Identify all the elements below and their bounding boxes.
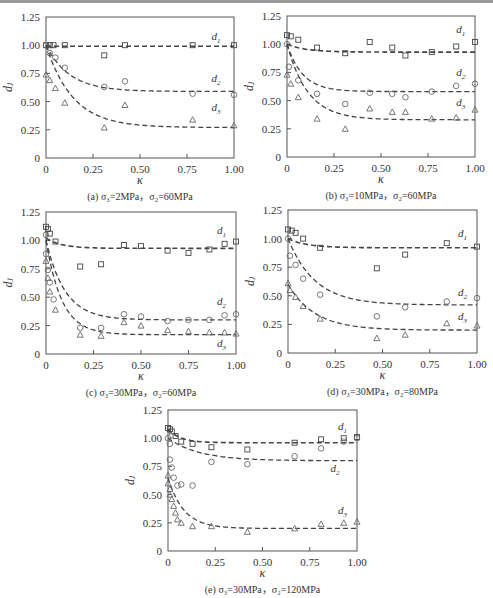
x-tick-label: 1.00 [467, 358, 487, 370]
circle-marker [402, 304, 408, 310]
triangle-marker [341, 520, 347, 526]
triangle-marker [208, 523, 214, 529]
subplot-caption: (c) σ₃=30MPa，σ₂=60MPa [86, 387, 197, 399]
square-marker [454, 44, 459, 49]
square-marker [186, 250, 191, 255]
subplot-d: 00.250.500.751.0000.250.500.751.001.25κd… [243, 204, 487, 398]
y-tick-label: 1.00 [143, 432, 163, 444]
subplot-caption: (a) σ₃=2MPa，σ₂=60MPa [87, 191, 193, 203]
series-label: d2 [456, 66, 466, 81]
triangle-marker [342, 126, 348, 132]
triangle-marker [101, 125, 107, 131]
x-tick-label: 1.00 [465, 162, 485, 174]
y-tick-label: 0.75 [21, 263, 41, 275]
circle-marker [98, 325, 104, 331]
circle-marker [453, 83, 459, 89]
y-axis-label: dⱼ [123, 475, 137, 485]
circle-marker [169, 465, 175, 471]
triangle-marker [186, 328, 192, 334]
circle-marker [292, 453, 298, 459]
triangle-marker [295, 94, 301, 100]
x-axis-label: κ [138, 369, 144, 383]
square-marker [209, 445, 214, 450]
x-tick-label: 0.25 [324, 162, 344, 174]
x-tick-label: 0 [285, 358, 291, 370]
x-tick-label: 0 [165, 556, 171, 568]
series-d3: d3 [285, 280, 480, 340]
circle-marker [178, 482, 184, 488]
x-axis-label: κ [260, 566, 266, 580]
x-tick-label: 1.00 [226, 359, 246, 371]
triangle-marker [62, 100, 68, 106]
series-label: d3 [211, 101, 221, 116]
triangle-marker [288, 81, 294, 87]
triangle-marker [293, 294, 299, 300]
y-tick-label: 0 [276, 151, 282, 163]
y-tick-label: 0.50 [143, 489, 163, 501]
triangle-marker [367, 105, 373, 111]
y-tick-label: 0 [157, 545, 163, 557]
series-label: d1 [211, 30, 220, 45]
series-label: d1 [456, 23, 465, 38]
triangle-marker [138, 323, 144, 329]
square-marker [245, 447, 250, 452]
square-marker [374, 266, 379, 271]
y-axis-label: dⱼ [1, 278, 15, 288]
circle-marker [51, 297, 57, 303]
triangle-marker [178, 520, 184, 526]
fit-curve [288, 239, 477, 248]
triangle-marker [190, 117, 196, 123]
square-marker [315, 45, 320, 50]
square-marker [102, 53, 107, 58]
y-tick-label: 0.25 [143, 517, 163, 529]
x-tick-label: 0.75 [300, 556, 320, 568]
series-label: d3 [456, 96, 466, 111]
triangle-marker [122, 102, 128, 108]
square-marker [121, 242, 126, 247]
x-tick-label: 0 [284, 162, 290, 174]
series-d1: d1 [285, 23, 478, 58]
x-tick-label: 0.75 [177, 163, 197, 175]
x-tick-label: 0.25 [206, 556, 226, 568]
square-marker [190, 441, 195, 446]
fit-curve [46, 45, 234, 127]
y-tick-label: 0.75 [143, 460, 163, 472]
y-tick-label: 0.50 [263, 290, 283, 302]
y-tick-label: 0.75 [263, 261, 283, 273]
circle-marker [165, 318, 171, 324]
circle-marker [300, 276, 306, 282]
y-tick-label: 1.00 [262, 38, 282, 50]
square-marker [444, 241, 449, 246]
triangle-marker [47, 77, 53, 83]
y-tick-label: 0.25 [21, 320, 41, 332]
y-tick-label: 1.25 [262, 10, 282, 22]
series-d3: d3 [165, 472, 360, 534]
subplot-c: 00.250.500.751.0000.250.500.751.001.25κd… [1, 206, 246, 399]
triangle-marker [318, 521, 324, 527]
circle-marker [222, 313, 228, 319]
y-tick-label: 1.25 [21, 206, 41, 218]
square-marker [390, 45, 395, 50]
triangle-marker [314, 116, 320, 122]
x-axis-label: κ [378, 172, 384, 186]
subplot-caption: (d) σ₃=30MPa，σ₂=80MPa [327, 386, 439, 398]
circle-marker [245, 461, 251, 467]
x-tick-label: 0.25 [84, 359, 104, 371]
x-tick-label: 0.25 [326, 358, 346, 370]
square-marker [403, 53, 408, 58]
square-marker [296, 37, 301, 42]
subplot-caption: (b) σ₃=10MPa，σ₂=60MPa [326, 190, 438, 202]
triangle-marker [402, 109, 408, 115]
fit-curve [168, 478, 357, 529]
x-tick-label: 0 [43, 359, 49, 371]
triangle-marker [389, 109, 395, 115]
y-tick-label: 1.25 [21, 11, 41, 23]
series-d1: d1 [166, 420, 360, 452]
square-marker [99, 262, 104, 267]
x-tick-label: 0.75 [418, 162, 438, 174]
triangle-marker [206, 329, 212, 335]
square-marker [78, 264, 83, 269]
y-tick-label: 0.50 [262, 95, 282, 107]
circle-marker [122, 78, 128, 84]
y-tick-label: 0.50 [21, 291, 41, 303]
